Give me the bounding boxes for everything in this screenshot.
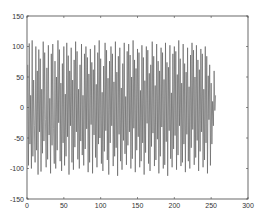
y-tick-label: 0 (20, 104, 24, 111)
x-tick-label: 50 (60, 202, 68, 209)
y-tick-label: 150 (12, 13, 24, 20)
x-tick-label: 300 (242, 202, 254, 209)
x-tick-label: 200 (168, 202, 180, 209)
x-tick-label: 150 (132, 202, 144, 209)
y-tick-label: 50 (16, 74, 24, 81)
line-chart: 050100150200250300150100500-50-100-150 (0, 0, 259, 223)
x-tick-label: 100 (95, 202, 107, 209)
x-tick-label: 0 (25, 202, 29, 209)
y-tick-label: -50 (14, 135, 24, 142)
x-tick-label: 250 (205, 202, 217, 209)
y-tick-label: -100 (10, 165, 24, 172)
y-tick-label: 100 (12, 43, 24, 50)
y-tick-label: -150 (10, 196, 24, 203)
